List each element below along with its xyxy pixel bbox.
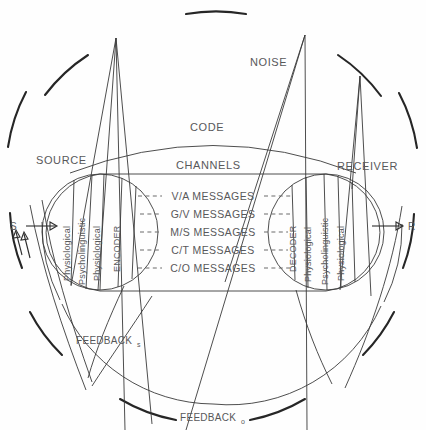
- communication-model-diagram: V/A MESSAGES G/V MESSAGES M/S MESSAGES C…: [0, 0, 426, 430]
- feedback-o-subscript: o: [241, 418, 245, 425]
- decoder-band-2-label: Psycholinguistic: [320, 217, 330, 285]
- message-row-0-label: V/A MESSAGES: [172, 190, 255, 202]
- receiver-label: RECEIVER: [337, 160, 398, 172]
- decoder-band-1-label: Physiological: [303, 227, 313, 282]
- diagram-canvas: V/A MESSAGES G/V MESSAGES M/S MESSAGES C…: [0, 0, 426, 430]
- encoder-band-0-label: Physiological: [62, 226, 72, 281]
- noise-label: NOISE: [250, 56, 287, 68]
- decoder-band-3-label: Physiological: [336, 226, 346, 281]
- message-row-4-label: C/O MESSAGES: [170, 262, 255, 274]
- channels-label: CHANNELS: [176, 159, 241, 171]
- message-row-2-label: M/S MESSAGES: [170, 226, 255, 238]
- encoder-label: ENCODER: [112, 225, 122, 272]
- source-label: SOURCE: [36, 154, 87, 166]
- encoder-band-1-label: Psycholinguistic: [77, 217, 87, 285]
- message-row-3-label: C/T MESSAGES: [171, 244, 254, 256]
- code-label: CODE: [190, 121, 224, 133]
- input-terminal-label: S: [10, 221, 17, 232]
- feedback-o-label: FEEDBACK: [180, 412, 236, 423]
- feedback-s-subscript: s: [137, 341, 141, 348]
- encoder-band-2-label: Physiological: [92, 226, 102, 281]
- decoder-label: DECODER: [288, 225, 298, 272]
- output-terminal-label: R: [408, 221, 416, 232]
- receiver-output-arrow: [372, 222, 403, 230]
- feedback-s-label: FEEDBACK: [76, 335, 132, 346]
- message-row-1-label: G/V MESSAGES: [171, 208, 256, 220]
